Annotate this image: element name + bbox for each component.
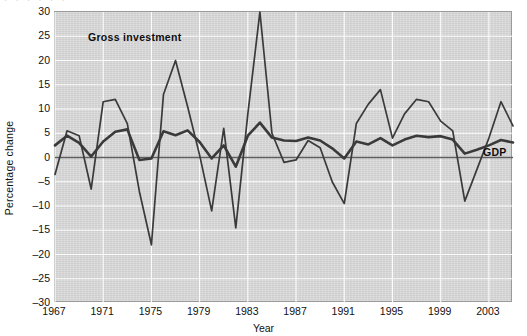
x-axis-title: Year: [0, 322, 527, 334]
y-tick-label: –20: [6, 248, 50, 260]
y-tick-label: 20: [6, 54, 50, 66]
data-series-layer: [55, 12, 513, 303]
x-tick-label: 1983: [235, 305, 258, 317]
series-label-gdp: GDP: [483, 146, 507, 158]
x-tick-label: 1995: [380, 305, 403, 317]
x-tick-label: 1975: [139, 305, 162, 317]
plot-area: [54, 11, 512, 302]
series-label-gross-investment: Gross investment: [88, 31, 182, 43]
x-tick-label: 1971: [91, 305, 114, 317]
x-tick-label: 1967: [42, 305, 65, 317]
y-tick-label: 15: [6, 78, 50, 90]
y-axis-title: Percentage change: [3, 108, 15, 228]
x-tick-label: 1979: [187, 305, 210, 317]
cropped-caption-strip: · · · · · ·: [0, 0, 527, 7]
y-tick-label: –25: [6, 272, 50, 284]
x-tick-label: 1999: [428, 305, 451, 317]
x-tick-label: 1991: [332, 305, 355, 317]
x-tick-label: 1987: [283, 305, 306, 317]
x-tick-label: 2003: [476, 305, 499, 317]
chart-container: · · · · · · 302520151050–5–10–15–20–25–3…: [0, 0, 527, 336]
y-tick-label: 30: [6, 5, 50, 17]
y-tick-label: 25: [6, 29, 50, 41]
